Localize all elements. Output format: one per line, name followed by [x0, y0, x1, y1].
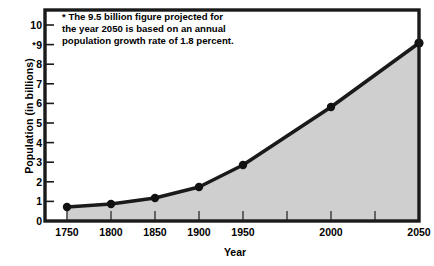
x-tick-label: 2000	[306, 226, 356, 238]
y-tick-label: 1	[16, 196, 42, 206]
x-axis-title: Year	[40, 246, 430, 258]
y-tick-label-marked: *9	[16, 40, 42, 50]
y-tick-label: 0	[16, 216, 42, 226]
x-tick-label: 1900	[174, 226, 224, 238]
data-point	[239, 161, 247, 169]
x-tick-label: 1950	[218, 226, 268, 238]
population-chart-figure: Population (in billions) 10 *9 8 7 6 5 4…	[0, 0, 434, 266]
chart-annotation: * The 9.5 billion figure projected for t…	[62, 11, 292, 48]
data-point	[107, 200, 115, 208]
y-tick-label: 5	[16, 118, 42, 128]
y-tick-label: 2	[16, 177, 42, 187]
data-point	[151, 194, 159, 202]
x-tick-label: 1800	[86, 226, 136, 238]
y-tick-label: 6	[16, 98, 42, 108]
data-point	[195, 183, 203, 191]
y-axis-tick-labels: 10 *9 8 7 6 5 4 3 2 1 0	[12, 0, 42, 266]
x-tick-label: 1850	[130, 226, 180, 238]
y-tick-label: 7	[16, 79, 42, 89]
data-point	[63, 203, 71, 211]
y-tick-label: 8	[16, 59, 42, 69]
y-tick-label: 10	[16, 20, 42, 30]
y-tick-label: 4	[16, 138, 42, 148]
y-tick-label: 3	[16, 157, 42, 167]
area-fill	[67, 43, 419, 221]
x-tick-label: 2050	[394, 226, 434, 238]
x-tick-label: 1750	[42, 226, 92, 238]
data-point	[327, 103, 335, 111]
